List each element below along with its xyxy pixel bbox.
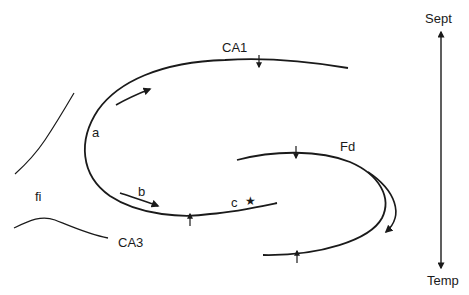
label-fi: fi (35, 190, 42, 203)
label-b: b (138, 185, 145, 198)
fimbria-line (15, 93, 74, 174)
ca1-curve (85, 59, 348, 215)
ca3-line (14, 218, 108, 238)
hippocampus-diagram: CA1 a b c ★ fi CA3 Fd Sept Temp (0, 0, 469, 295)
label-ca1: CA1 (222, 41, 247, 54)
label-fd: Fd (340, 140, 355, 153)
label-sept: Sept (425, 12, 452, 25)
fd-curve (237, 153, 385, 255)
label-temp: Temp (427, 274, 459, 287)
arrow-a (116, 89, 150, 105)
label-a: a (92, 126, 99, 139)
star-icon: ★ (245, 195, 256, 207)
fd-arrow (368, 172, 396, 232)
label-c: c (231, 196, 238, 209)
label-ca3: CA3 (118, 236, 143, 249)
